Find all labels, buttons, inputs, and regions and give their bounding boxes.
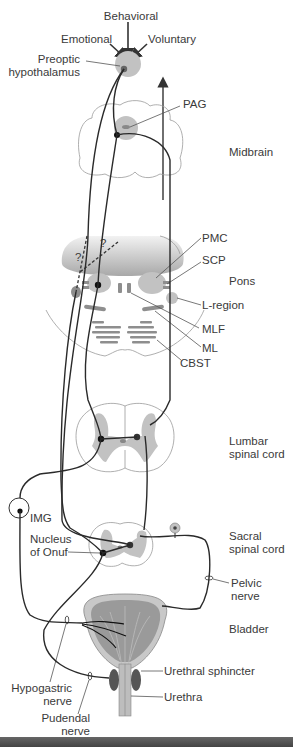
sacral-label-line1: Sacral [229,530,262,542]
img-label: IMG [30,512,52,524]
l-region-label: L-region [202,299,244,311]
cbst-label: CBST [180,357,211,369]
l-region-leader [177,298,201,305]
ml-left [84,304,106,311]
sacral-label-line2: spinal cord [229,543,285,555]
lumbar-central-canal [120,439,126,443]
right-scp-2 [163,286,170,289]
input-arrows [110,22,147,56]
aqueduct [122,125,130,129]
pudendal-leader [78,680,89,714]
emotional-label: Emotional [61,33,112,45]
onuf-label-line1: Nucleus [30,533,72,545]
ml-label: ML [202,342,219,354]
voluntary-label: Voluntary [148,33,196,45]
drg-neuron [173,526,177,530]
preoptic-label-line1: Preoptic [38,53,80,65]
lumbar-label-line1: Lumbar [229,435,268,447]
pag-ascending-link [117,134,170,236]
right-pmc-nucleus [138,272,166,294]
img-ganglion [9,498,29,518]
cbst-leader [157,340,181,360]
pelvic-leader [213,579,229,583]
nerve-pathways [20,69,210,678]
pag-leader [130,106,180,127]
micturition-pathway-diagram: Behavioral Emotional Voluntary Preoptic … [0,0,293,747]
urethra-label: Urethra [164,691,203,703]
midbrain-label: Midbrain [229,146,273,158]
onuf-leader [68,552,100,553]
behavioral-label: Behavioral [104,10,158,22]
lumbar-label-line2: spinal cord [229,448,285,460]
scp-label: SCP [202,254,226,266]
preoptic-leader [86,61,120,66]
bottom-edge-bar [0,737,293,747]
question-mark-2: ? [75,251,81,263]
mlf-label: MLF [202,323,225,335]
urethral-sphincter-label: Urethral sphincter [164,665,255,677]
hypogastric-label-line2: nerve [43,695,72,707]
left-urethral-sphincter [109,669,119,691]
urethra-leader [131,696,163,697]
hypogastric-leader [50,624,66,682]
onuf-label-line2: of Onuf [30,546,69,558]
pons-label: Pons [229,275,255,287]
hypogastric-label-line1: Hypogastric [11,682,72,694]
pudendal-label-line2: nerve [61,725,90,737]
hypogastric-nerve [20,511,82,623]
right-urethral-sphincter [131,669,141,691]
pelvic-label-line2: nerve [231,590,260,602]
pelvic-label-line1: Pelvic [231,577,262,589]
preoptic-label-line2: hypothalamus [8,66,80,78]
midbrain-outline [79,101,183,178]
bladder-label: Bladder [229,623,269,635]
mlf-right [127,283,131,293]
cbst-fibers [92,321,157,344]
pag-label: PAG [183,98,206,110]
pudendal-label-line1: Pudendal [41,712,90,724]
right-l-region [166,292,178,304]
mlf-left [118,283,122,293]
preoptic-hypothalamus-nucleus [115,51,141,77]
pmc-label: PMC [202,232,228,244]
